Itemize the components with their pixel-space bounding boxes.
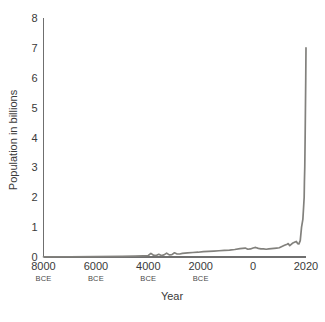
x-tick-label: 8000 (31, 260, 55, 272)
x-tick-label: 6000 (84, 260, 108, 272)
y-tick-label: 6 (31, 72, 37, 84)
chart-svg: 012345678 8000BCE6000BCE4000BCE2000BCE02… (0, 0, 325, 322)
x-tick-sublabel: BCE (88, 274, 104, 283)
x-tick-sublabel: BCE (35, 274, 51, 283)
x-tick-label: 4000 (136, 260, 160, 272)
x-tick-label: 0 (250, 260, 256, 272)
x-tick-label: 2000 (188, 260, 212, 272)
population-chart: 012345678 8000BCE6000BCE4000BCE2000BCE02… (0, 0, 325, 322)
x-tick-label: 2020 (294, 260, 318, 272)
y-tick-label: 7 (31, 42, 37, 54)
y-tick-label: 4 (31, 132, 37, 144)
x-tick-sublabel: BCE (140, 274, 156, 283)
x-axis-tick-labels: 8000BCE6000BCE4000BCE2000BCE02020 (31, 260, 318, 283)
population-line-series (44, 48, 307, 257)
y-tick-label: 5 (31, 102, 37, 114)
x-tick-sublabel: BCE (193, 274, 209, 283)
y-tick-label: 3 (31, 161, 37, 173)
y-tick-label: 2 (31, 191, 37, 203)
y-axis-tick-labels: 012345678 (31, 12, 37, 263)
y-tick-label: 1 (31, 221, 37, 233)
y-tick-label: 8 (31, 12, 37, 24)
x-axis-title: Year (161, 290, 184, 302)
y-axis-title: Population in billions (7, 89, 19, 190)
